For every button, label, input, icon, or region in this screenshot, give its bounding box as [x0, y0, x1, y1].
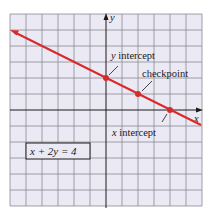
- checkpoint-point: [135, 91, 141, 97]
- graph-figure: y x y intercept checkpoint x intercept x…: [0, 0, 212, 218]
- x-intercept-point: [167, 107, 173, 113]
- x-intercept-label: x intercept: [111, 127, 156, 138]
- y-intercept-label: y intercept: [110, 50, 155, 61]
- equation-label: x + 2y = 4: [29, 145, 77, 157]
- y-intercept-point: [103, 75, 109, 81]
- checkpoint-label: checkpoint: [142, 68, 188, 79]
- y-axis-label: y: [109, 12, 115, 23]
